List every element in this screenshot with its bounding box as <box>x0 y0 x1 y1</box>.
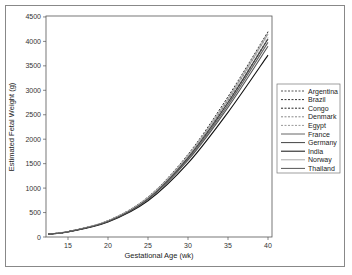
line-chart: 050010001500200025003000350040004500 152… <box>0 0 352 275</box>
y-tick-label: 500 <box>29 209 41 216</box>
legend-label: Congo <box>308 105 329 113</box>
legend-label: Argentina <box>308 88 338 96</box>
y-tick-label: 0 <box>37 234 41 241</box>
x-axis-label: Gestational Age (wk) <box>124 251 194 260</box>
legend-label: Norway <box>308 156 332 164</box>
series-line-norway <box>48 34 268 234</box>
y-tick-label: 4500 <box>25 13 41 20</box>
series-lines <box>48 32 268 235</box>
x-tick-label: 35 <box>224 242 232 249</box>
series-line-france <box>48 42 268 234</box>
x-tick-label: 30 <box>184 242 192 249</box>
series-line-denmark <box>48 33 268 234</box>
y-axis: 050010001500200025003000350040004500 <box>25 13 46 240</box>
y-tick-label: 2000 <box>25 136 41 143</box>
y-tick-label: 4000 <box>25 38 41 45</box>
series-line-germany <box>48 39 268 234</box>
y-tick-label: 2500 <box>25 111 41 118</box>
y-tick-label: 1500 <box>25 160 41 167</box>
x-axis: 152025303540 <box>64 237 272 249</box>
series-line-thailand <box>48 46 268 234</box>
legend-label: Brazil <box>308 96 326 103</box>
legend-label: Denmark <box>308 113 337 120</box>
legend-label: Egypt <box>308 122 326 130</box>
series-line-egypt <box>48 37 268 234</box>
series-line-india <box>48 55 268 234</box>
y-axis-label: Estimated Fetal Weight (g) <box>7 82 16 171</box>
x-tick-label: 15 <box>64 242 72 249</box>
x-tick-label: 20 <box>104 242 112 249</box>
y-tick-label: 3500 <box>25 62 41 69</box>
series-line-brazil <box>48 32 268 234</box>
legend-label: Thailand <box>308 165 335 172</box>
legend-label: India <box>308 148 323 155</box>
y-tick-label: 1000 <box>25 185 41 192</box>
legend-label: Germany <box>308 139 337 147</box>
x-tick-label: 25 <box>144 242 152 249</box>
plot-area <box>46 16 272 237</box>
series-line-congo <box>48 39 268 234</box>
legend-label: France <box>308 131 330 138</box>
y-tick-label: 3000 <box>25 87 41 94</box>
series-line-argentina <box>48 34 268 234</box>
x-tick-label: 40 <box>264 242 272 249</box>
